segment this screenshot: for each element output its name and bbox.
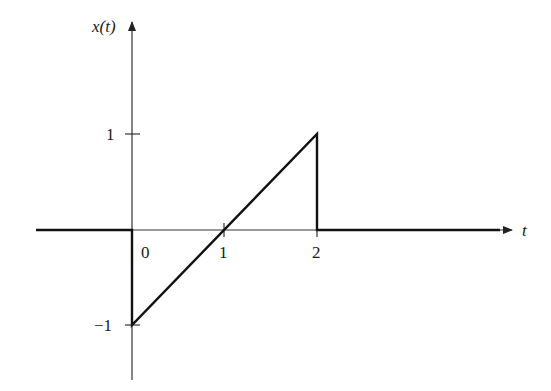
x-axis-label: t — [522, 221, 528, 240]
tick-label-x2: 2 — [312, 243, 321, 262]
signal-plot: x(t) t 0 1 2 1 −1 — [0, 0, 551, 391]
tick-label-x1: 1 — [219, 243, 228, 262]
tick-label-x0: 0 — [141, 243, 150, 262]
tick-label-y1: 1 — [106, 125, 115, 144]
y-axis-label: x(t) — [91, 17, 116, 36]
tick-label-ym1: −1 — [94, 316, 112, 335]
